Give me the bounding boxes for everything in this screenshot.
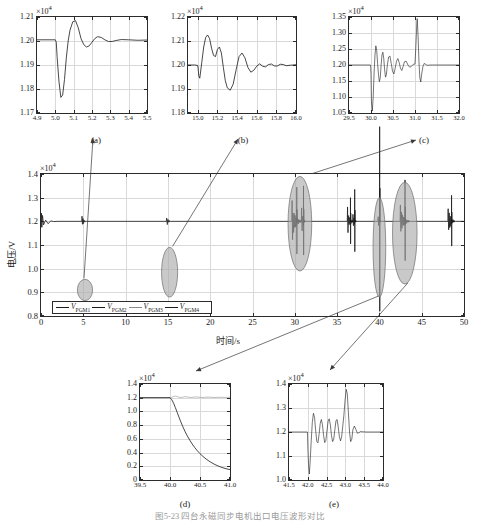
subplot-e: ×104 41.542.042.543.043.544.01.01.11.21.… (288, 383, 384, 481)
y-tick-label: 1.20 (332, 61, 346, 69)
data-trace (349, 19, 459, 111)
main-axes: 051015202530354045500.80.91.01.11.21.31.… (40, 173, 465, 317)
data-trace (289, 389, 383, 474)
x-tick-label: 30.5 (387, 115, 398, 122)
y-tick-label: 1.10 (332, 93, 346, 101)
highlight-ellipse-b (162, 247, 178, 297)
x-tick-label: 5.3 (106, 115, 115, 122)
y-tick-label: 1.15 (332, 77, 346, 85)
x-tick-label: 0 (39, 318, 43, 327)
subplot-b-label: (b) (238, 136, 249, 145)
subplot-b: ×104 15.015.215.415.615.816.01.181.191.2… (187, 16, 297, 114)
subplot-b-axes: 15.015.215.415.615.816.01.181.191.201.21… (187, 16, 297, 114)
y-tick-label: 0.8 (127, 421, 137, 429)
y-tick-label: 1.21 (171, 37, 185, 45)
y-tick-label: 1.2 (276, 428, 286, 436)
subplot-d: ×104 39.540.040.541.000.20.40.60.81.01.2… (139, 383, 231, 481)
leader-line (313, 140, 416, 173)
legend-label-2: VPGM3 (144, 303, 163, 313)
y-tick-label: 1.05 (332, 109, 346, 117)
y-tick-label: 0 (133, 476, 137, 484)
y-tick-label: 0.4 (127, 449, 137, 457)
x-tick-label: 35 (333, 318, 342, 327)
y-tick-label: 1.0 (276, 476, 286, 484)
x-tick-label: 15.4 (231, 115, 242, 122)
main-exponent: ×104 (40, 162, 56, 173)
x-tick-label: 43.5 (359, 482, 370, 489)
figure-caption: 图5-23 四台永磁同步电机出口电压波形对比 (0, 512, 480, 521)
legend-swatch-icon (129, 307, 142, 308)
plot-traces (37, 17, 147, 113)
y-tick-label: 1.20 (171, 61, 185, 69)
x-tick-label: 30 (291, 318, 300, 327)
x-tick-label: 5.0 (51, 115, 60, 122)
highlight-ellipse-a (77, 279, 92, 300)
y-tick-label: 1.30 (332, 29, 346, 37)
x-tick-label: 15.8 (271, 115, 282, 122)
y-tick-label: 1.17 (20, 109, 34, 117)
x-tick-label: 41.0 (224, 482, 236, 489)
leader-arrowhead-icon (196, 367, 201, 371)
legend-swatch-icon (92, 307, 105, 308)
y-tick-label: 1.4 (127, 380, 137, 388)
subplot-a: ×104 4.95.05.15.25.35.45.51.171.181.191.… (36, 16, 148, 114)
y-tick-label: 1.20 (20, 37, 34, 45)
x-tick-label: 42.5 (321, 482, 332, 489)
x-tick-label: 40.0 (164, 482, 176, 489)
x-tick-label: 16.0 (290, 115, 301, 122)
x-tick-label: 5.5 (143, 115, 152, 122)
y-tick-label: 1.3 (276, 404, 286, 412)
x-tick-label: 5 (81, 318, 85, 327)
x-tick-label: 42.0 (302, 482, 313, 489)
subplot-c-label: (c) (419, 136, 429, 145)
x-tick-label: 10 (121, 318, 130, 327)
x-tick-label: 5.2 (88, 115, 97, 122)
x-tick-label: 43.0 (340, 482, 351, 489)
legend-item-0: VPGM1 (56, 303, 90, 313)
y-tick-label: 1.19 (171, 85, 185, 93)
x-tick-label: 20 (206, 318, 215, 327)
highlight-ellipse-e (393, 182, 418, 284)
x-tick-label: 31.5 (431, 115, 442, 122)
y-tick-label: 1.3 (27, 193, 38, 202)
plot-traces (349, 17, 459, 113)
y-tick-label: 1.35 (332, 13, 346, 21)
y-tick-label: 1.18 (171, 109, 185, 117)
plot-traces (289, 384, 383, 480)
x-tick-label: 5.4 (124, 115, 133, 122)
subplot-c-axes: 29.530.030.531.031.532.01.051.101.151.20… (348, 16, 460, 114)
x-tick-label: 15.0 (192, 115, 203, 122)
subplot-c: ×104 29.530.030.531.031.532.01.051.101.1… (348, 16, 460, 114)
x-tick-label: 15.2 (212, 115, 223, 122)
y-tick-label: 1.19 (20, 61, 34, 69)
legend-item-1: VPGM2 (92, 303, 126, 313)
leader-arrowhead-icon (330, 365, 335, 370)
y-tick-label: 1.4 (276, 380, 286, 388)
x-tick-label: 32.0 (453, 115, 464, 122)
data-trace (37, 21, 147, 98)
legend-item-2: VPGM3 (129, 303, 163, 313)
y-tick-label: 1.2 (127, 394, 137, 402)
subplot-c-exponent: ×104 (348, 5, 364, 16)
x-tick-label: 40.5 (194, 482, 206, 489)
plot-traces (188, 17, 296, 113)
x-tick-label: 30.0 (365, 115, 376, 122)
legend-swatch-icon (165, 307, 178, 308)
y-tick-label: 0.2 (127, 462, 137, 470)
subplot-d-axes: 39.540.040.541.000.20.40.60.81.01.21.4 (139, 383, 231, 481)
y-tick-label: 0.9 (27, 288, 38, 297)
y-tick-label: 1.0 (27, 264, 38, 273)
x-tick-label: 15.6 (251, 115, 262, 122)
x-tick-label: 44.0 (377, 482, 388, 489)
subplot-a-exponent: ×104 (36, 5, 52, 16)
highlight-ellipse-c (288, 176, 312, 271)
y-tick-label: 1.1 (276, 452, 286, 460)
subplot-a-axes: 4.95.05.15.25.35.45.51.171.181.191.201.2… (36, 16, 148, 114)
legend-swatch-icon (56, 307, 69, 308)
main-plot: ×104 051015202530354045500.80.91.01.11.2… (40, 173, 465, 317)
data-trace (140, 398, 230, 470)
y-tick-label: 1.1 (27, 241, 38, 250)
subplot-e-axes: 41.542.042.543.043.544.01.01.11.21.31.4 (288, 383, 384, 481)
main-ylabel: 电压/V (8, 241, 17, 268)
y-tick-label: 1.25 (332, 45, 346, 53)
